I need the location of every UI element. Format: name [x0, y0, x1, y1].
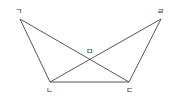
label-point-e: ㅁ	[86, 47, 93, 56]
label-point-b: ㄴ	[46, 86, 53, 95]
label-point-a: ㄱ	[15, 7, 22, 16]
segment-giyeok-digeut	[20, 19, 129, 82]
segment-nieun-rieul	[50, 19, 161, 82]
label-point-d: ㄹ	[157, 7, 164, 16]
label-point-c: ㄷ	[126, 86, 133, 95]
geometry-diagram: ㄱ ㄹ ㅁ ㄴ ㄷ	[0, 0, 174, 100]
segment-giyeok-nieun	[20, 19, 50, 82]
